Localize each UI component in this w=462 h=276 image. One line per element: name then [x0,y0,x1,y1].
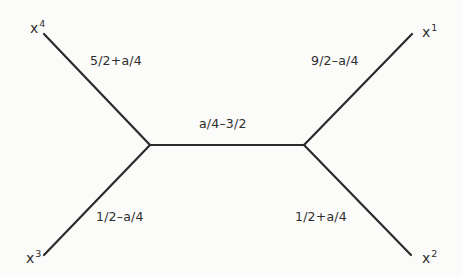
node-x4-base: x [30,20,38,36]
edge-label-lower-right: 1/2+a/4 [295,209,347,224]
edge-lower-left [44,145,150,255]
node-x4-sup: 4 [39,18,45,29]
node-x1-sup: 1 [431,22,437,33]
node-x3-sup: 3 [35,248,41,259]
edge-lower-right [304,145,411,255]
node-x2: x2 [422,248,437,266]
edge-label-upper-left: 5/2+a/4 [90,53,142,68]
edge-upper-right [304,34,412,145]
edge-label-lower-left: 1/2–a/4 [96,209,144,224]
edge-label-middle: a/4–3/2 [199,116,247,131]
node-x1: x1 [422,22,437,40]
node-x3: x3 [26,248,41,266]
node-x1-base: x [422,24,430,40]
tree-diagram [0,0,462,276]
node-x2-sup: 2 [431,248,437,259]
node-x2-base: x [422,250,430,266]
edge-label-upper-right: 9/2–a/4 [311,53,359,68]
node-x4: x4 [30,18,45,36]
edge-upper-left [44,34,150,145]
node-x3-base: x [26,250,34,266]
